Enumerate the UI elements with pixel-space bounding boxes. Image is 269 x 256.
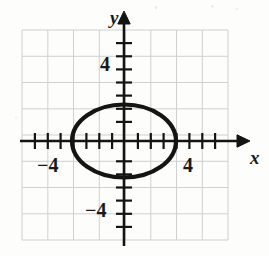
y-axis-label: y bbox=[110, 8, 118, 27]
x-axis-arrowhead bbox=[237, 135, 250, 147]
graph-figure: y x 4 −4 4 −4 bbox=[0, 0, 269, 256]
y-axis-arrowhead bbox=[118, 11, 130, 24]
y-tick-label-positive-4: 4 bbox=[100, 54, 110, 74]
x-tick-label-positive-4: 4 bbox=[183, 155, 193, 175]
coordinate-plane-svg bbox=[0, 0, 269, 256]
axes bbox=[20, 11, 250, 246]
x-axis-label: x bbox=[250, 148, 260, 167]
y-tick-label-negative-4: −4 bbox=[85, 200, 106, 220]
x-tick-label-negative-4: −4 bbox=[37, 155, 58, 175]
